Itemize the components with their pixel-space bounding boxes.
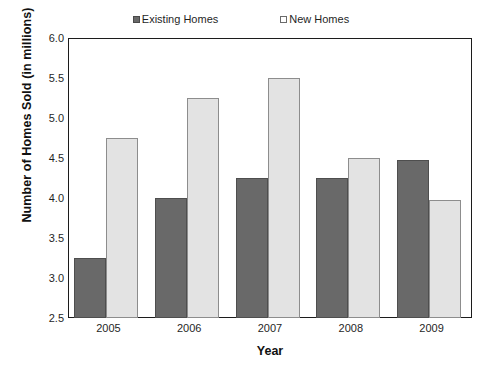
y-axis-tick-label: 3.0 <box>28 272 64 284</box>
legend-label-new-homes: New Homes <box>289 14 349 25</box>
bar-group <box>310 38 391 318</box>
x-axis-tick-label: 2005 <box>70 322 146 334</box>
y-axis-tick-label: 4.0 <box>28 192 64 204</box>
bar-new-homes <box>268 78 300 318</box>
legend-item-new-homes: New Homes <box>280 14 349 25</box>
bar-new-homes <box>106 138 138 318</box>
bar-chart: Existing Homes New Homes Number of Homes… <box>0 0 482 375</box>
bars-layer <box>68 38 472 318</box>
open-square-icon <box>280 16 287 23</box>
x-axis-tick-labels: 20052006200720082009 <box>68 322 472 340</box>
y-axis-tick-label: 5.5 <box>28 72 64 84</box>
bar-new-homes <box>348 158 380 318</box>
bar-group <box>391 38 472 318</box>
bar-new-homes <box>429 200 461 318</box>
y-axis-tick-label: 2.5 <box>28 312 64 324</box>
y-axis-tick-label: 5.0 <box>28 112 64 124</box>
bar-group <box>149 38 230 318</box>
x-axis-tick-label: 2008 <box>313 322 389 334</box>
x-axis-title: Year <box>68 344 472 358</box>
bar-existing-homes <box>397 160 429 318</box>
y-axis-tick-label: 6.0 <box>28 32 64 44</box>
y-axis-tick-label: 3.5 <box>28 232 64 244</box>
filled-square-icon <box>133 16 140 23</box>
chart-legend: Existing Homes New Homes <box>0 9 482 29</box>
bar-existing-homes <box>236 178 268 318</box>
x-axis-tick-label: 2009 <box>394 322 470 334</box>
bar-group <box>68 38 149 318</box>
bar-existing-homes <box>155 198 187 318</box>
x-axis-tick-label: 2007 <box>232 322 308 334</box>
x-axis-tick-label: 2006 <box>151 322 227 334</box>
y-axis-tick-labels: 6.05.55.04.54.03.53.02.5 <box>28 38 64 318</box>
bar-existing-homes <box>74 258 106 318</box>
legend-item-existing-homes: Existing Homes <box>133 14 218 25</box>
bar-existing-homes <box>316 178 348 318</box>
bar-group <box>230 38 311 318</box>
y-axis-tick-label: 4.5 <box>28 152 64 164</box>
legend-label-existing-homes: Existing Homes <box>142 14 218 25</box>
bar-new-homes <box>187 98 219 318</box>
